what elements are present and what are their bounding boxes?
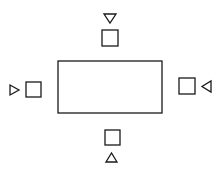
seat-square-top: [102, 30, 118, 46]
table-rectangle: [58, 61, 162, 113]
seating-diagram: [0, 0, 221, 175]
seat-top: [102, 14, 118, 46]
triangle-down-icon: [104, 14, 116, 23]
seat-square-bottom: [105, 130, 120, 145]
seat-left: [10, 82, 41, 97]
triangle-right-icon: [10, 85, 19, 95]
seat-square-right: [179, 78, 195, 94]
seat-square-left: [26, 82, 41, 97]
seat-bottom: [105, 130, 120, 162]
triangle-up-icon: [106, 153, 117, 162]
seat-right: [179, 78, 211, 94]
triangle-left-icon: [202, 81, 211, 92]
